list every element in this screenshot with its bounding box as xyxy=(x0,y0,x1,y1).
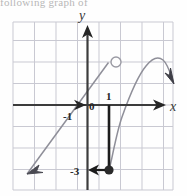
graph-figure: following graph of xyxy=(0,0,187,196)
x-axis-label: x xyxy=(169,99,177,114)
tick-label-one: 1 xyxy=(106,90,112,102)
cubic-branch-curve xyxy=(109,58,173,170)
tick-label-neg-one: -1 xyxy=(63,110,72,122)
tick-label-neg-three: -3 xyxy=(70,165,80,177)
left-arrow-at-minus-three xyxy=(88,165,105,176)
open-circle-endpoint xyxy=(111,57,121,67)
y-axis-label: y xyxy=(77,8,86,23)
tick-label-origin: 0 xyxy=(89,100,95,112)
closed-dot-endpoint xyxy=(104,165,113,174)
coordinate-plane-svg: y x -1 0 1 -3 xyxy=(0,0,187,196)
